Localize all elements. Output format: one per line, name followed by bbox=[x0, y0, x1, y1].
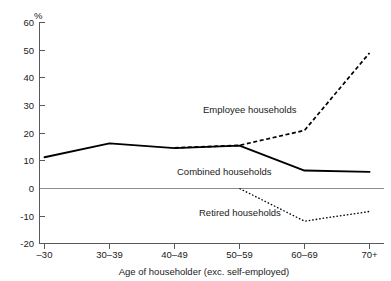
x-tick-label-40-49: 40–49 bbox=[161, 249, 187, 260]
x-tick-label-70plus: 70+ bbox=[361, 249, 378, 260]
x-axis-ticks bbox=[45, 244, 370, 249]
y-tick-label-30: 30 bbox=[23, 100, 34, 111]
y-tick-label-20: 20 bbox=[23, 128, 34, 139]
y-tick-label-50: 50 bbox=[23, 45, 34, 56]
series-label-combined-households: Combined households bbox=[177, 166, 272, 177]
x-tick-label-50-59: 50–59 bbox=[226, 249, 252, 260]
y-tick-label-10: 10 bbox=[23, 155, 34, 166]
series-line-employee-households bbox=[175, 53, 370, 148]
y-axis-ticks bbox=[40, 23, 45, 244]
x-axis-title: Age of householder (exc. self-employed) bbox=[119, 266, 290, 277]
y-axis-unit-label: % bbox=[34, 10, 43, 21]
y-tick-label-0: 0 bbox=[29, 183, 34, 194]
line-chart: % 60 50 40 30 20 10 0 -10 -20 bbox=[0, 0, 391, 281]
y-tick-label-60: 60 bbox=[23, 17, 34, 28]
chart-container: % 60 50 40 30 20 10 0 -10 -20 bbox=[0, 0, 391, 281]
series-label-employee-households: Employee households bbox=[203, 104, 297, 115]
series-label-retired-households: Retired households bbox=[199, 207, 281, 218]
y-tick-label-minus10: -10 bbox=[20, 211, 34, 222]
y-tick-label-minus20: -20 bbox=[20, 238, 34, 249]
x-tick-label-under30: –30 bbox=[37, 249, 53, 260]
x-tick-label-60-69: 60–69 bbox=[291, 249, 317, 260]
x-tick-label-30-39: 30–39 bbox=[96, 249, 122, 260]
y-tick-label-40: 40 bbox=[23, 72, 34, 83]
